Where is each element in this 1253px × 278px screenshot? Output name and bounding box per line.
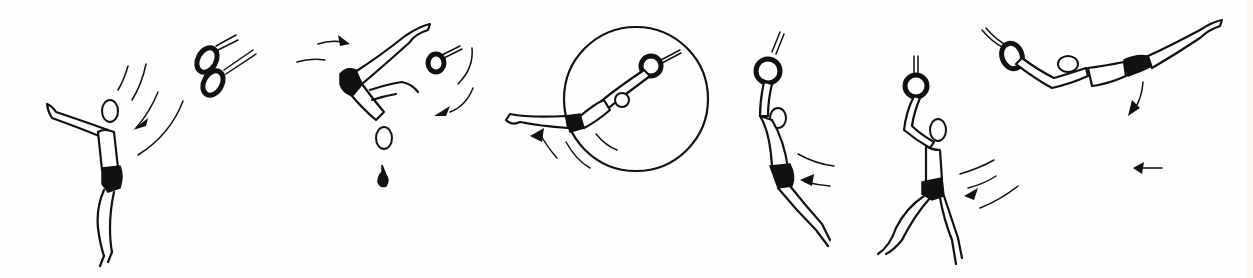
gymnastics-sequence-drawing	[0, 0, 1253, 278]
frame-6-horizontal-swing	[982, 20, 1222, 174]
frame-2-inverted-gymnast	[297, 24, 473, 187]
frame-1-standing-gymnast	[47, 35, 256, 266]
illustration-canvas: Gymnastics rings swing sequence	[0, 0, 1253, 278]
frame-5-stepping-gymnast	[878, 56, 1018, 264]
frame-4-hanging-swing	[756, 32, 834, 246]
frame-3-circle-swing	[506, 27, 708, 171]
